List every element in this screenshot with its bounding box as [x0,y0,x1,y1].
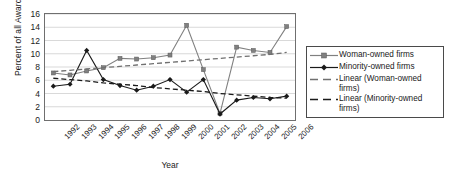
chart-figure: Percent of all Awards 0246810121416 1992… [0,0,449,185]
series-line-1 [53,50,286,114]
x-tick-label: 2003 [247,123,265,141]
y-tick-label: 16 [20,10,40,18]
data-point-marker [151,56,155,60]
data-point-marker [101,77,106,82]
legend-item[interactable]: Minority-owned firms [309,62,440,73]
x-axis-tick-labels: 1992199319941995199619971998199920002001… [44,121,296,155]
y-tick-label: 12 [20,37,40,45]
x-tick-label: 2002 [230,123,248,141]
x-tick-label: 2000 [197,123,215,141]
y-tick-label: 14 [20,23,40,31]
legend-swatch-icon [309,94,339,105]
x-tick-label: 2004 [264,123,282,141]
y-tick-label: 4 [20,90,40,98]
data-point-marker [84,48,89,53]
data-point-marker [51,84,56,89]
x-tick-label: 1993 [80,123,98,141]
data-point-marker [251,48,255,52]
x-tick-label: 1996 [130,123,148,141]
data-point-marker [235,45,239,49]
chart-legend: Woman-owned firmsMinority-owned firmsLin… [306,46,444,118]
plot-svg [45,14,295,120]
x-axis-title: Year [44,160,296,170]
y-tick-label: 8 [20,63,40,71]
x-tick-label: 2001 [214,123,232,141]
legend-label: Linear (Minority-owned firms) [339,94,440,113]
legend-label: Linear (Woman-owned firms) [339,74,440,93]
data-point-marker [185,23,189,27]
legend-label: Minority-owned firms [339,62,415,72]
data-point-marker [201,68,205,72]
legend-swatch-icon [309,74,339,85]
data-point-marker [135,57,139,61]
data-point-marker [68,73,72,77]
legend-item[interactable]: Linear (Minority-owned firms) [309,94,440,113]
x-tick-label: 1999 [180,123,198,141]
x-tick-label: 1994 [97,123,115,141]
data-point-marker [285,25,289,29]
data-point-marker [67,82,72,87]
x-tick-label: 1992 [64,123,82,141]
data-point-marker [118,56,122,60]
legend-item[interactable]: Linear (Woman-owned firms) [309,74,440,93]
x-tick-label: 1998 [164,123,182,141]
y-tick-label: 10 [20,50,40,58]
legend-swatch-icon [309,50,339,61]
y-tick-label: 2 [20,103,40,111]
legend-swatch-icon [309,62,339,73]
y-axis-tick-labels: 0246810121416 [20,13,40,121]
x-tick-label: 1995 [114,123,132,141]
y-tick-label: 6 [20,76,40,84]
y-tick-label: 0 [20,116,40,124]
x-tick-label: 1997 [147,123,165,141]
legend-item[interactable]: Woman-owned firms [309,50,440,61]
x-tick-label: 2005 [280,123,298,141]
x-tick-label: 2006 [297,123,315,141]
plot-area [44,13,296,121]
data-point-marker [134,88,139,93]
legend-label: Woman-owned firms [339,50,414,60]
data-point-marker [168,53,172,57]
